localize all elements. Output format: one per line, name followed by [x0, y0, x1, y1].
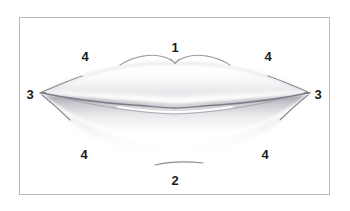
label-1: 1 — [167, 41, 183, 54]
lower-lip-shading — [44, 95, 306, 140]
label-3-left: 3 — [22, 88, 38, 101]
upper-lip-shading — [42, 62, 308, 97]
label-4-bottom-left: 4 — [76, 148, 92, 161]
label-4-bottom-right: 4 — [257, 148, 273, 161]
below-lip-crease-line — [155, 162, 203, 165]
label-3-right: 3 — [310, 88, 326, 101]
label-4-top-right: 4 — [260, 50, 276, 63]
figure-root: 1 2 3 3 4 4 4 4 — [0, 0, 350, 211]
label-4-top-left: 4 — [77, 50, 93, 63]
label-2: 2 — [167, 174, 183, 187]
